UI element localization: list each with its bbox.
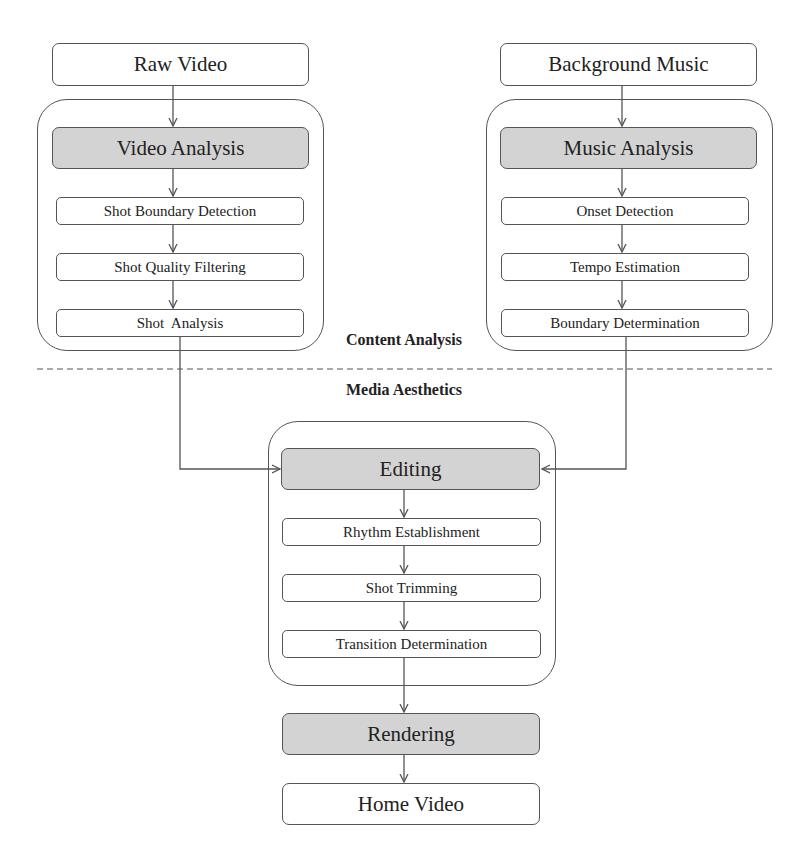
rendering-node: Rendering xyxy=(282,713,540,755)
shot-analysis-node: Shot Analysis xyxy=(56,309,304,337)
boundary-determination-node: Boundary Determination xyxy=(501,309,749,337)
tempo-estimation-node: Tempo Estimation xyxy=(501,253,749,281)
media-aesthetics-label: Media Aesthetics xyxy=(304,381,504,399)
onset-detection-node: Onset Detection xyxy=(501,197,749,225)
music-analysis-node: Music Analysis xyxy=(500,127,757,169)
content-analysis-label: Content Analysis xyxy=(304,331,504,349)
transition-determination-node: Transition Determination xyxy=(282,630,541,658)
shot-trimming-node: Shot Trimming xyxy=(282,574,541,602)
editing-node: Editing xyxy=(281,448,540,490)
shot-quality-filtering-node: Shot Quality Filtering xyxy=(56,253,304,281)
raw-video-node: Raw Video xyxy=(52,43,309,86)
video-analysis-node: Video Analysis xyxy=(52,127,309,169)
shot-boundary-detection-node: Shot Boundary Detection xyxy=(56,197,304,225)
home-video-node: Home Video xyxy=(282,783,540,825)
background-music-node: Background Music xyxy=(500,43,757,86)
rhythm-establishment-node: Rhythm Establishment xyxy=(282,518,541,546)
arrow-shot-analysis-to-editing xyxy=(180,337,280,469)
